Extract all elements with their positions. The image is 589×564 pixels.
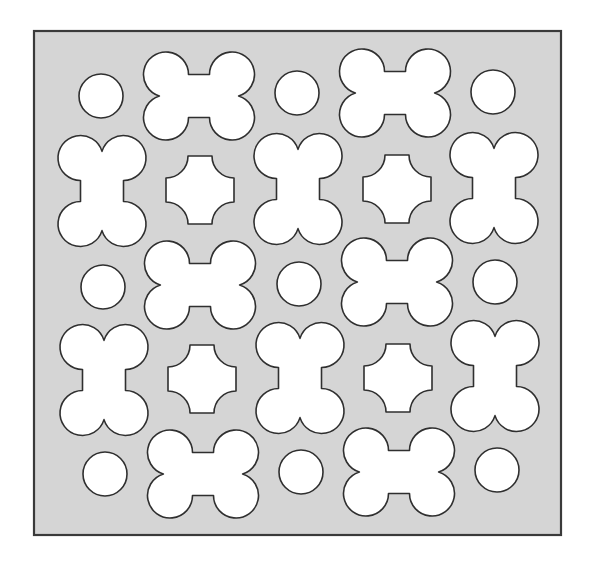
circle-hole xyxy=(79,74,123,118)
perforated-panel-diagram xyxy=(0,0,589,564)
circle-hole xyxy=(279,450,323,494)
circle-hole xyxy=(471,70,515,114)
circle-hole xyxy=(473,260,517,304)
circle-hole xyxy=(81,265,125,309)
diagram-canvas xyxy=(0,0,589,564)
circle-hole xyxy=(275,71,319,115)
circle-hole xyxy=(277,262,321,306)
circle-hole xyxy=(83,452,127,496)
circle-hole xyxy=(475,448,519,492)
